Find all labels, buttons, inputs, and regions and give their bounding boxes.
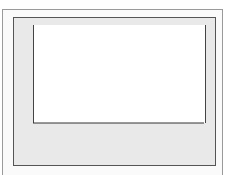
chart-curves: [0, 0, 227, 175]
